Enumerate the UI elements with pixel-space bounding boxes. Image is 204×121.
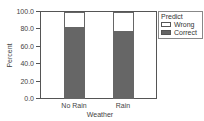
y-tick-40: 40.0 [20,60,34,67]
y-tick-60: 60.0 [20,43,34,50]
x-axis-label: Weather [80,111,120,118]
plot-area [40,11,157,99]
y-tick-20: 20.0 [20,78,34,85]
legend-item-wrong: Wrong [161,21,195,28]
y-tick-80: 80.0 [20,25,34,32]
x-tick-rain: Rain [103,102,143,109]
legend-swatch-correct [161,30,171,35]
legend-item-correct: Correct [161,29,197,36]
x-tick-no-rain: No Rain [54,102,94,109]
bar-rain-correct [113,31,134,99]
y-tick-100: 100.0 [16,8,34,15]
bar-no-rain-correct [64,27,85,99]
y-tick-0: 0.0 [24,95,34,102]
legend-title: Predict [161,13,183,20]
bar-rain-wrong [113,12,134,32]
y-axis-label: Percent [6,41,13,71]
legend-label: Wrong [174,21,195,28]
legend-label: Correct [174,29,197,36]
bar-no-rain-wrong [64,12,85,28]
legend-swatch-wrong [161,22,171,27]
legend: Predict Wrong Correct [158,11,203,39]
